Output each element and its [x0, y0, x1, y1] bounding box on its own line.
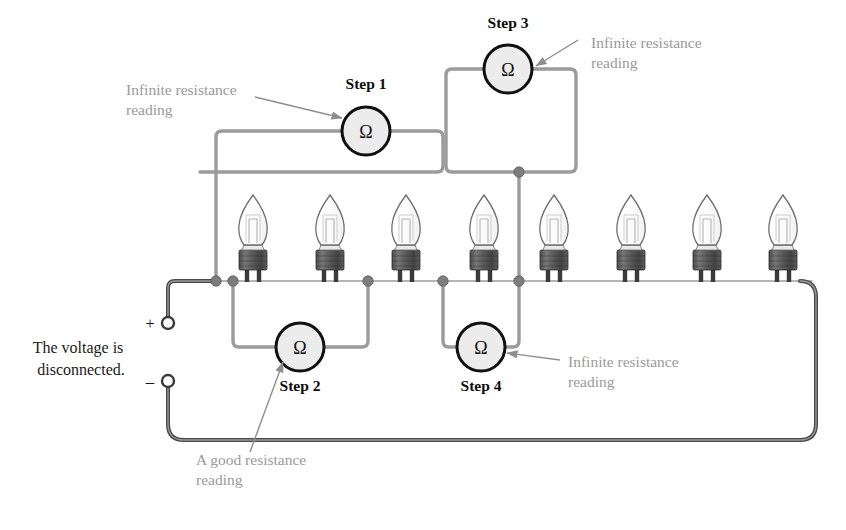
callout-arrow-step4: [507, 353, 560, 360]
bulb-glass: [392, 195, 420, 245]
terminal-post-positive[interactable]: +: [145, 314, 174, 333]
bulb-base: [617, 250, 645, 270]
meter-step-3[interactable]: Ω Step 3: [484, 14, 532, 93]
probe-wire-step1-right: [200, 131, 443, 172]
probe-wire-step3-right: [525, 69, 576, 172]
bulb-neck: [319, 245, 341, 250]
bulb-base: [392, 250, 420, 270]
probe-wire-step2-right: [324, 281, 368, 347]
bulb: [239, 195, 267, 282]
bulb-glass: [693, 195, 721, 245]
bulb-neck: [543, 245, 565, 250]
ohm-symbol-step1: Ω: [359, 122, 372, 142]
bulb: [470, 195, 498, 282]
junction-dot: [363, 276, 373, 286]
bulb-base: [769, 250, 797, 270]
terminal-negative-sign: –: [145, 372, 155, 391]
callout-step1-line2: reading: [126, 101, 173, 118]
voltage-note-line1: The voltage is: [33, 339, 124, 357]
bulb: [769, 195, 797, 282]
junction-dot: [514, 167, 524, 177]
bulb-neck: [473, 245, 495, 250]
voltage-note-line2: disconnected.: [37, 361, 125, 378]
terminal-negative-ring[interactable]: [162, 375, 174, 387]
bulb-base: [239, 250, 267, 270]
callout-step1: Infinite resistance reading: [126, 81, 342, 118]
circuit-diagram-canvas: + – Ω Step 1 Ω Step 3 Ω Step 2 Ω Step 4: [0, 0, 846, 530]
callout-arrow-step3: [536, 40, 578, 66]
ohm-symbol-step2: Ω: [293, 338, 306, 358]
bulb-glass: [769, 195, 797, 245]
bulb-base: [540, 250, 568, 270]
callout-step2-line1: A good resistance: [196, 451, 306, 468]
callout-step3-line1: Infinite resistance: [591, 34, 702, 51]
terminal-positive-ring[interactable]: [162, 317, 174, 329]
bulb: [316, 195, 344, 282]
callout-step3: Infinite resistance reading: [536, 34, 702, 71]
step-label-2: Step 2: [280, 377, 321, 394]
callout-step3-line2: reading: [591, 54, 638, 71]
bulb-glass: [540, 195, 568, 245]
main-wire-positive-lead-highlight: [168, 281, 216, 316]
callout-step4: Infinite resistance reading: [507, 353, 679, 390]
step-label-4: Step 4: [461, 377, 502, 394]
callout-arrow-step1: [255, 97, 342, 118]
meter-step-1[interactable]: Ω Step 1: [342, 75, 390, 155]
junction-dot: [438, 276, 448, 286]
bulb-neck: [242, 245, 264, 250]
bulb-neck: [395, 245, 417, 250]
bulb-glass: [470, 195, 498, 245]
callout-step1-line1: Infinite resistance: [126, 81, 237, 98]
callout-step2-line2: reading: [196, 471, 243, 488]
step-label-1: Step 1: [346, 75, 387, 92]
bulb-glass: [239, 195, 267, 245]
ohm-symbol-step4: Ω: [474, 338, 487, 358]
bulb: [693, 195, 721, 282]
bulb-neck: [696, 245, 718, 250]
bulb-base: [693, 250, 721, 270]
circuit-diagram-root: + – Ω Step 1 Ω Step 3 Ω Step 2 Ω Step 4: [0, 0, 846, 530]
probe-wire-step4-right: [505, 281, 519, 347]
ohm-symbol-step3: Ω: [501, 60, 514, 80]
callout-step4-line1: Infinite resistance: [568, 353, 679, 370]
step-label-3: Step 3: [488, 14, 529, 31]
junction-dot: [211, 276, 221, 286]
meter-step-4[interactable]: Ω Step 4: [457, 323, 505, 394]
bulb: [617, 195, 645, 282]
voltage-disconnected-note: The voltage is disconnected.: [33, 339, 125, 378]
meter-step-2[interactable]: Ω Step 2: [276, 323, 324, 394]
main-wire-positive-lead: [168, 281, 216, 316]
terminal-positive-sign: +: [145, 314, 155, 333]
bulb-glass: [617, 195, 645, 245]
bulb-neck: [772, 245, 794, 250]
bulb-glass: [316, 195, 344, 245]
callout-step4-line2: reading: [568, 373, 615, 390]
bulb-base: [470, 250, 498, 270]
bulb-neck: [620, 245, 642, 250]
junction-dot: [228, 276, 238, 286]
bulb: [540, 195, 568, 282]
bulb: [392, 195, 420, 282]
probe-wire-step2-left: [233, 281, 276, 347]
probe-wire-step4-left: [443, 281, 457, 347]
junction-dot: [514, 276, 524, 286]
bulb-base: [316, 250, 344, 270]
